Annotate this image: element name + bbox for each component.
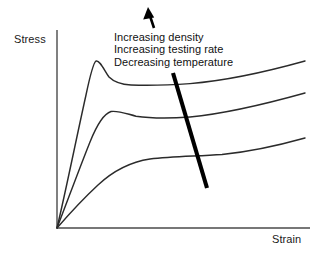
high-density-curve: [57, 61, 305, 228]
x-axis-label: Strain: [272, 233, 301, 245]
stress-strain-figure: Stress Strain Increasing density Increas…: [0, 0, 322, 259]
trend-line-1: Increasing density: [114, 31, 233, 43]
trend-bar: [173, 73, 207, 188]
trend-annotation-text: Increasing density Increasing testing ra…: [114, 31, 233, 68]
low-density-curve: [57, 138, 305, 228]
trend-arrow-icon: [143, 7, 154, 28]
trend-line-3: Decreasing temperature: [114, 56, 233, 68]
trend-line-2: Increasing testing rate: [114, 43, 233, 55]
y-axis-label: Stress: [14, 33, 46, 45]
medium-density-curve: [57, 93, 305, 228]
